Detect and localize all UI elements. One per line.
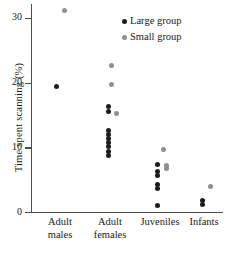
- data-point: [155, 162, 160, 167]
- legend-entry-small-group: Small group: [122, 30, 227, 46]
- legend-label-small-group: Small group: [130, 30, 182, 44]
- data-point: [109, 63, 114, 68]
- data-point: [155, 186, 160, 191]
- data-point: [155, 173, 160, 178]
- y-tick-mark: [25, 83, 31, 84]
- y-axis-line: [31, 4, 32, 213]
- legend-entry-large-group: Large group: [122, 14, 227, 30]
- data-point: [62, 8, 67, 13]
- legend-label-large-group: Large group: [130, 14, 181, 28]
- y-tick-label: 30: [0, 12, 22, 22]
- x-axis-label-infants: Infants: [164, 216, 231, 229]
- data-point: [164, 166, 169, 171]
- x-axis-line: [31, 212, 223, 213]
- scatter-plot-figure: Time spent scanning (%) 0102030 Adultmal…: [0, 0, 231, 255]
- y-tick-mark: [25, 212, 31, 213]
- legend: Large group Small group: [122, 14, 227, 46]
- y-tick-mark: [25, 18, 31, 19]
- legend-marker-icon-large-group: [122, 19, 127, 24]
- data-point: [106, 144, 111, 149]
- legend-marker-icon-small-group: [122, 35, 127, 40]
- y-tick-label: 20: [0, 77, 22, 87]
- y-tick-mark: [25, 147, 31, 148]
- data-point: [208, 184, 213, 189]
- data-point: [54, 84, 59, 89]
- data-point: [114, 111, 119, 116]
- y-tick-label: 0: [0, 207, 22, 217]
- y-axis-title: Time spent scanning (%): [13, 33, 24, 203]
- data-point: [161, 147, 166, 152]
- data-point: [155, 203, 160, 208]
- data-point: [106, 109, 111, 114]
- y-tick-label: 10: [0, 142, 22, 152]
- data-point: [109, 82, 114, 87]
- data-point: [106, 153, 111, 158]
- data-point: [200, 202, 205, 207]
